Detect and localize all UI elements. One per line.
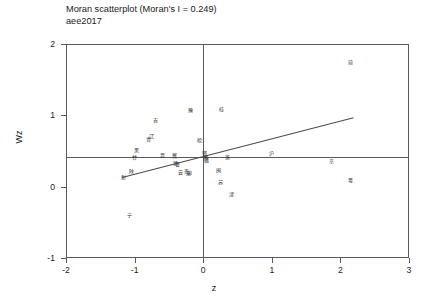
- plot-area: 新陕甘黑宁青辽吉晋冀蒙鲁云贵川渝豫皖鄂湘赣桂闽苏浙津沪京粤琼: [66, 44, 409, 258]
- scatter-point-label: 陕: [129, 168, 134, 173]
- y-tick-label: 2: [33, 39, 55, 49]
- scatter-point-label: 津: [229, 191, 234, 196]
- scatter-point-label: 豫: [188, 107, 193, 112]
- y-tick-label: 0: [33, 182, 55, 192]
- scatter-point-label: 闽: [216, 168, 221, 173]
- scatter-point-label: 浙: [225, 155, 230, 160]
- scatter-point-label: 渝: [186, 171, 191, 176]
- x-tick-label: 2: [329, 265, 351, 275]
- x-tick-label: -2: [55, 265, 77, 275]
- scatter-point-label: 桂: [219, 106, 224, 111]
- x-tick-label: -1: [124, 265, 146, 275]
- scatter-point-label: 鲁: [175, 161, 180, 166]
- scatter-point-label: 宁: [127, 213, 132, 218]
- scatter-point-label: 吉: [153, 118, 158, 123]
- x-tick-label: 1: [261, 265, 283, 275]
- scatter-point-label: 新: [121, 175, 126, 180]
- chart-canvas: Moran scatterplot (Moran's I = 0.249) ae…: [0, 0, 428, 302]
- scatter-point-label: 黑: [134, 148, 139, 153]
- y-axis-label: Wz: [14, 116, 24, 158]
- x-tick-mark: [272, 258, 273, 263]
- y-tick-label: 1: [33, 110, 55, 120]
- regression-line: [122, 117, 354, 178]
- x-tick-mark: [409, 258, 410, 263]
- scatter-point-label: 云: [178, 170, 183, 175]
- scatter-point-label: 京: [329, 158, 334, 163]
- chart-title-block: Moran scatterplot (Moran's I = 0.249) ae…: [66, 4, 217, 27]
- scatter-point-label: 皖: [197, 137, 202, 142]
- scatter-point-label: 晋: [160, 153, 165, 158]
- x-tick-mark: [340, 258, 341, 263]
- x-tick-mark: [135, 258, 136, 263]
- chart-subtitle: aee2017: [66, 16, 217, 28]
- scatter-point-label: 苏: [218, 179, 223, 184]
- x-tick-mark: [203, 258, 204, 263]
- x-axis-label: z: [0, 283, 428, 293]
- scatter-point-label: 赣: [204, 157, 209, 162]
- chart-title: Moran scatterplot (Moran's I = 0.249): [66, 4, 217, 16]
- scatter-point-label: 沪: [269, 151, 274, 156]
- scatter-point-label: 甘: [132, 155, 137, 160]
- x-tick-mark: [66, 258, 67, 263]
- scatter-point-label: 粤: [348, 177, 353, 182]
- y-tick-label: -1: [33, 253, 55, 263]
- scatter-point-label: 冀: [172, 153, 177, 158]
- scatter-point-label: 琼: [348, 59, 353, 64]
- x-axis-ticks: -2-10123: [66, 258, 409, 276]
- x-tick-label: 0: [192, 265, 214, 275]
- x-tick-label: 3: [398, 265, 420, 275]
- mean-wz-reference-line: [66, 157, 409, 158]
- scatter-point-label: 辽: [149, 134, 154, 139]
